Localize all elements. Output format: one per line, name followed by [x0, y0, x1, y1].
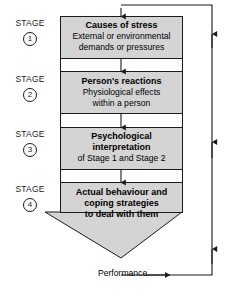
stage-3-title-line-1: Psychological	[61, 131, 182, 142]
stage-4-title-line-1: Actual behaviour and	[61, 187, 182, 198]
stage-number-1: 1	[23, 32, 37, 46]
stage-3-title-line-2: interpretation	[61, 142, 182, 153]
stage-box-4-content: Actual behaviour and coping strategies t…	[61, 187, 182, 220]
stage-1-line-2: demands or pressures	[61, 42, 182, 53]
stage-label-2: STAGE 2	[2, 75, 58, 102]
stage-1-line-1: External or environmental	[61, 31, 182, 42]
stage-2-line-1: Physiological effects	[61, 87, 182, 98]
stage-box-2-content: Person's reactions Physiological effects…	[61, 76, 182, 108]
stage-label-4: STAGE 4	[2, 185, 58, 212]
stage-label-3: STAGE 3	[2, 130, 58, 157]
stage-4-title-line-2: coping strategies	[61, 198, 182, 209]
stage-word-1: STAGE	[2, 19, 58, 28]
stress-performance-diagram: STAGE 1 STAGE 2 STAGE 3 STAGE 4 Causes o…	[0, 0, 226, 292]
stage-2-line-2: within a person	[61, 98, 182, 109]
stage-box-1-content: Causes of stress External or environment…	[61, 20, 182, 52]
stage-number-4: 4	[23, 198, 37, 212]
stage-2-title: Person's reactions	[61, 76, 182, 87]
stage-3-line-1: of Stage 1 and Stage 2	[61, 153, 182, 164]
stage-number-2: 2	[23, 88, 37, 102]
stage-number-3: 3	[23, 143, 37, 157]
stage-1-title: Causes of stress	[61, 20, 182, 31]
stage-4-title-line-3: to deal with them	[61, 209, 182, 220]
stage-label-1: STAGE 1	[2, 19, 58, 46]
performance-label: Performance	[98, 268, 147, 278]
stage-word-4: STAGE	[2, 185, 58, 194]
stage-box-3-content: Psychological interpretation of Stage 1 …	[61, 131, 182, 164]
stage-word-3: STAGE	[2, 130, 58, 139]
stage-word-2: STAGE	[2, 75, 58, 84]
